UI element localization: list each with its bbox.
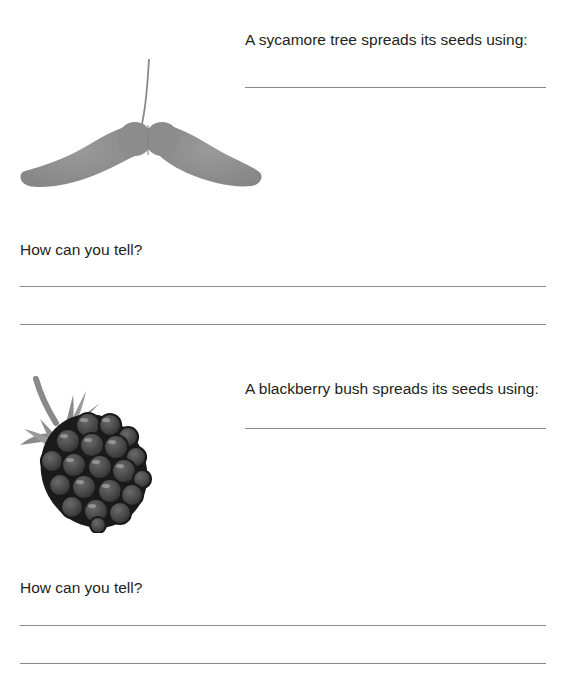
question-prompt: A sycamore tree spreads its seeds using: — [245, 30, 528, 50]
answer-line-dispersal[interactable] — [245, 87, 546, 88]
sycamore-seed-icon — [15, 55, 265, 195]
answer-line-explanation-1[interactable] — [20, 286, 546, 287]
answer-line-explanation-1[interactable] — [20, 625, 546, 626]
question-prompt: A blackberry bush spreads its seeds usin… — [245, 379, 539, 399]
answer-line-dispersal[interactable] — [245, 428, 546, 429]
follow-up-question: How can you tell? — [20, 240, 142, 260]
answer-line-explanation-2[interactable] — [20, 324, 546, 325]
follow-up-question: How can you tell? — [20, 578, 142, 598]
blackberry-icon — [18, 375, 153, 533]
answer-line-explanation-2[interactable] — [20, 663, 546, 664]
